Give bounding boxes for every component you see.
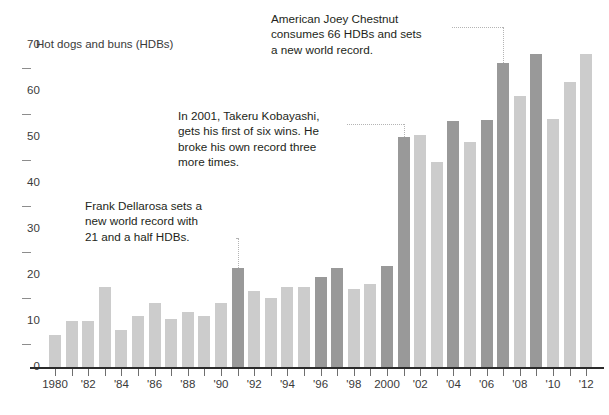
bar xyxy=(248,291,260,367)
x-axis-tick xyxy=(536,369,537,376)
bar xyxy=(149,303,161,367)
bar xyxy=(49,335,61,367)
bar xyxy=(447,121,459,367)
annotation-dellarosa: Frank Dellarosa sets a new world record … xyxy=(85,198,202,244)
y-axis-tick-label: 50 xyxy=(0,130,40,142)
x-axis-tick xyxy=(238,369,239,376)
x-axis-tick xyxy=(354,369,355,376)
bar xyxy=(381,266,393,367)
x-axis-tick xyxy=(321,369,322,376)
annotation-leader-chestnut xyxy=(452,27,503,28)
y-axis-minor-tick xyxy=(22,68,31,69)
x-axis-baseline xyxy=(30,367,604,369)
hot-dog-contest-bar-chart: 010203040506070 1980'82'84'86'88'90'92'9… xyxy=(0,0,609,415)
x-axis-tick xyxy=(188,369,189,376)
x-axis-tick xyxy=(287,369,288,376)
bar xyxy=(580,54,592,367)
bar xyxy=(315,277,327,367)
bar xyxy=(398,137,410,367)
bar xyxy=(481,120,493,367)
bar xyxy=(547,119,559,367)
y-axis-minor-tick xyxy=(22,206,31,207)
x-axis-tick xyxy=(138,369,139,376)
x-axis-tick xyxy=(254,369,255,376)
bar xyxy=(464,142,476,367)
x-axis-tick xyxy=(387,369,388,376)
annotation-chestnut: American Joey Chestnut consumes 66 HDBs … xyxy=(271,11,422,57)
x-axis-tick xyxy=(121,369,122,376)
x-axis-tick xyxy=(155,369,156,376)
x-axis-tick xyxy=(553,369,554,376)
y-axis-minor-tick xyxy=(22,114,31,115)
bar xyxy=(182,312,194,367)
bar xyxy=(298,287,310,368)
annotation-leader-kobayashi xyxy=(347,124,404,125)
bar xyxy=(115,330,127,367)
x-axis-tick xyxy=(370,369,371,376)
bar xyxy=(331,268,343,367)
bar xyxy=(265,298,277,367)
y-axis-minor-tick xyxy=(22,344,31,345)
bar xyxy=(165,319,177,367)
bar xyxy=(215,303,227,367)
x-axis-tick xyxy=(420,369,421,376)
x-axis-tick xyxy=(503,369,504,376)
bar xyxy=(514,96,526,367)
x-axis-tick xyxy=(470,369,471,376)
x-axis-tick-label: '12 xyxy=(561,378,609,390)
x-axis-tick xyxy=(570,369,571,376)
y-axis-tick-label: 60 xyxy=(0,84,40,96)
y-axis-minor-tick xyxy=(22,160,31,161)
x-axis-tick xyxy=(55,369,56,376)
bar xyxy=(99,287,111,368)
y-axis-tick-label: 10 xyxy=(0,314,40,326)
bar xyxy=(232,268,244,367)
x-axis-tick xyxy=(453,369,454,376)
x-axis-tick xyxy=(337,369,338,376)
y-axis-minor-tick xyxy=(22,252,31,253)
x-axis-tick xyxy=(437,369,438,376)
y-axis-tick-label: 20 xyxy=(0,268,40,280)
y-axis-tick-label: 40 xyxy=(0,176,40,188)
y-axis-tick-label: 0 xyxy=(0,360,40,372)
annotation-kobayashi: In 2001, Takeru Kobayashi, gets his firs… xyxy=(178,108,319,170)
bar xyxy=(281,287,293,368)
bar xyxy=(431,162,443,367)
x-axis-tick xyxy=(586,369,587,376)
x-axis-tick xyxy=(271,369,272,376)
annotation-leader-drop-dellarosa xyxy=(238,238,239,268)
x-axis-tick xyxy=(88,369,89,376)
y-axis-title: Hot dogs and buns (HDBs) xyxy=(36,38,173,50)
bar xyxy=(198,316,210,367)
y-axis-tick-label: 30 xyxy=(0,222,40,234)
x-axis-tick xyxy=(221,369,222,376)
annotation-leader-drop-kobayashi xyxy=(404,124,405,137)
x-axis-tick xyxy=(520,369,521,376)
bar xyxy=(364,284,376,367)
y-axis-tick-label: 70 xyxy=(0,38,40,50)
y-axis-minor-tick xyxy=(22,298,31,299)
annotation-leader-drop-chestnut xyxy=(503,27,504,63)
x-axis-tick xyxy=(171,369,172,376)
x-axis-tick xyxy=(404,369,405,376)
x-axis-tick xyxy=(487,369,488,376)
x-axis-tick xyxy=(204,369,205,376)
bar xyxy=(82,321,94,367)
bar xyxy=(348,289,360,367)
bar xyxy=(564,82,576,367)
x-axis-tick xyxy=(105,369,106,376)
bar xyxy=(66,321,78,367)
bar xyxy=(530,54,542,367)
x-axis-tick xyxy=(72,369,73,376)
bar xyxy=(132,316,144,367)
bar xyxy=(497,63,509,367)
x-axis-tick xyxy=(304,369,305,376)
bar xyxy=(414,135,426,367)
